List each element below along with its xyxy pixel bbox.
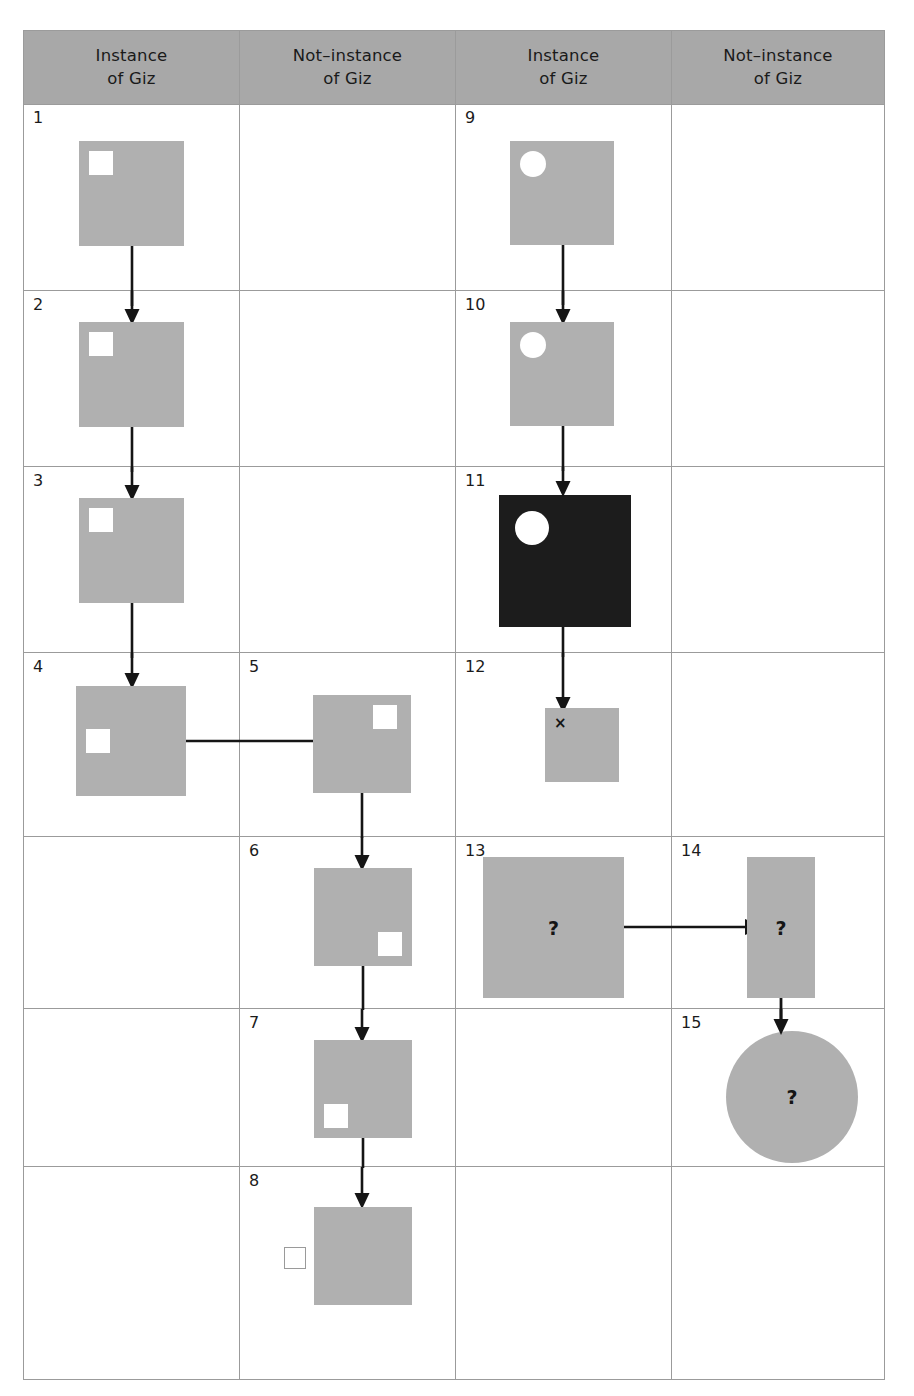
shape-square: [314, 1040, 412, 1138]
panel-12: 12 ×: [456, 653, 671, 836]
panel-10: 10: [456, 291, 671, 466]
column-header-line2: of Giz: [754, 68, 802, 90]
shape-rectangle-tall: ?: [747, 857, 815, 998]
shape-square-small: ×: [545, 708, 619, 782]
shape-square: [79, 141, 184, 246]
panel-3: 3: [24, 467, 239, 652]
arrow-5-to-6: [355, 793, 369, 838]
panel-number: 3: [33, 473, 43, 489]
column-header-not-instance-1: Not–instance of Giz: [240, 31, 455, 104]
arrowhead-into-11: [553, 467, 573, 499]
panel-6: 6: [240, 837, 455, 1008]
panel-number: 8: [249, 1173, 259, 1189]
marker-outline-square: [284, 1247, 306, 1269]
column-header-line2: of Giz: [323, 68, 371, 90]
marker-white-square: [89, 332, 113, 356]
shape-square: [313, 695, 411, 793]
marker-x: ×: [554, 716, 567, 731]
panel-4: 4: [24, 653, 239, 836]
column-header-line1: Instance: [96, 45, 168, 67]
panel-number: 1: [33, 110, 43, 126]
arrow-2-to-3: [125, 427, 139, 472]
panel-13: 13 ?: [456, 837, 671, 1008]
concept-grid-table: Instance of Giz Not–instance of Giz Inst…: [23, 30, 885, 1380]
panel-number: 4: [33, 659, 43, 675]
grid-vline-3: [671, 31, 672, 1379]
shape-square-dark: [499, 495, 631, 627]
panel-number: 10: [465, 297, 485, 313]
shape-square: [79, 322, 184, 427]
question-mark-label: ?: [726, 1088, 858, 1107]
question-mark-label: ?: [747, 918, 815, 937]
panel-number: 11: [465, 473, 485, 489]
column-header-line1: Not–instance: [723, 45, 832, 67]
arrowhead-into-12: [553, 653, 573, 715]
marker-white-square: [378, 932, 402, 956]
panel-2: 2: [24, 291, 239, 466]
column-header-instance-1: Instance of Giz: [24, 31, 239, 104]
shape-square: [314, 1207, 412, 1305]
marker-white-square: [373, 705, 397, 729]
panel-number: 12: [465, 659, 485, 675]
shape-square: [79, 498, 184, 603]
arrow-7-to-8: [356, 1138, 370, 1168]
question-mark-label: ?: [483, 918, 624, 937]
panel-number: 15: [681, 1015, 701, 1031]
panel-15: 15 ?: [672, 1009, 884, 1166]
panel-11: 11: [456, 467, 671, 652]
panel-number: 9: [465, 110, 475, 126]
arrow-3-to-4: [125, 603, 139, 658]
arrow-6-to-7: [356, 966, 370, 1010]
column-header-line1: Not–instance: [293, 45, 402, 67]
column-header-line1: Instance: [528, 45, 600, 67]
column-header-line2: of Giz: [539, 68, 587, 90]
marker-white-square: [89, 151, 113, 175]
shape-square: [510, 141, 614, 245]
figure-canvas: Instance of Giz Not–instance of Giz Inst…: [0, 0, 914, 1396]
shape-square: [510, 322, 614, 426]
panel-1: 1: [24, 104, 239, 290]
arrowhead-into-15: [773, 1009, 789, 1037]
panel-number: 7: [249, 1015, 259, 1031]
shape-circle-large: ?: [726, 1031, 858, 1163]
panel-14: 14 ?: [672, 837, 884, 1008]
column-header-not-instance-2: Not–instance of Giz: [672, 31, 884, 104]
shape-square: [314, 868, 412, 966]
panel-9: 9: [456, 104, 671, 290]
panel-number: 14: [681, 843, 701, 859]
shape-square-large: ?: [483, 857, 624, 998]
arrowhead-into-8: [352, 1167, 372, 1211]
panel-8: 8: [240, 1167, 455, 1380]
arrow-10-to-11: [556, 426, 570, 471]
panel-7: 7: [240, 1009, 455, 1166]
panel-number: 5: [249, 659, 259, 675]
marker-white-square: [89, 508, 113, 532]
marker-white-circle: [515, 511, 549, 545]
marker-white-square: [86, 729, 110, 753]
panel-5: 5: [240, 653, 455, 836]
panel-number: 2: [33, 297, 43, 313]
marker-white-circle: [520, 332, 546, 358]
panel-number: 6: [249, 843, 259, 859]
marker-white-square: [324, 1104, 348, 1128]
shape-square: [76, 686, 186, 796]
column-header-instance-2: Instance of Giz: [456, 31, 671, 104]
column-header-line2: of Giz: [107, 68, 155, 90]
marker-white-circle: [520, 151, 546, 177]
